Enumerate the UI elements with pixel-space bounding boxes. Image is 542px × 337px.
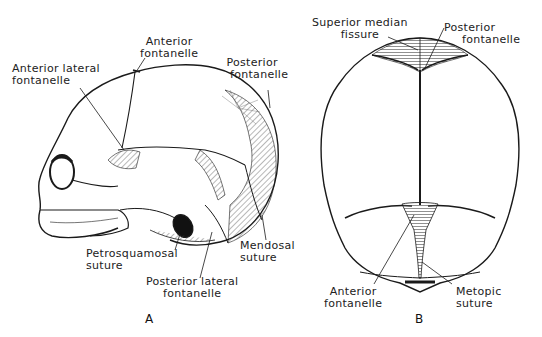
label-anterior-fontanelle-b: Anterior fontanelle — [324, 286, 382, 310]
superior-skull-view — [321, 28, 519, 292]
label-posterior-lateral-fontanelle: Posterior lateral fontanelle — [146, 276, 238, 300]
figure-letter-a: A — [145, 312, 153, 326]
label-petrosquamosal-suture: Petrosquamosal suture — [86, 248, 178, 272]
label-posterior-fontanelle-b: Posterior fontanelle — [444, 22, 520, 46]
label-posterior-fontanelle-a: Posterior fontanelle — [216, 57, 288, 81]
label-metopic-suture: Metopic suture — [456, 286, 502, 310]
label-superior-median-fissure: Superior median fissure — [312, 17, 408, 41]
label-anterior-lateral-fontanelle: Anterior lateral fontanelle — [12, 63, 100, 87]
label-mendosal-suture: Mendosal suture — [240, 240, 295, 264]
figure-letter-b: B — [415, 312, 423, 326]
label-anterior-fontanelle-a: Anterior fontanelle — [140, 36, 198, 60]
